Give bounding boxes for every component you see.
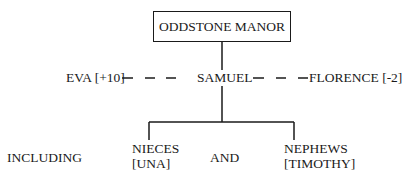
conjunction-and: AND	[210, 150, 239, 165]
children-prefix-including: INCLUDING	[7, 150, 82, 165]
child-node-nephews: NEPHEWS [TIMOTHY]	[284, 141, 355, 171]
child-label: NIECES	[132, 141, 179, 156]
root-label: ODDSTONE MANOR	[159, 19, 285, 35]
child-sublabel: [UNA]	[132, 156, 179, 171]
root-node-oddstone-manor: ODDSTONE MANOR	[153, 11, 291, 42]
left-partner-eva: EVA [+10]	[66, 70, 125, 85]
child-label: NEPHEWS	[284, 141, 355, 156]
child-sublabel: [TIMOTHY]	[284, 156, 355, 171]
child-node-nieces: NIECES [UNA]	[132, 141, 179, 171]
right-partner-florence: FLORENCE [-2]	[309, 70, 402, 85]
center-node-samuel: SAMUEL	[197, 70, 253, 85]
